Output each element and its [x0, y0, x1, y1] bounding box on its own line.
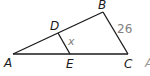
vertex-label-c: C [124, 57, 133, 71]
triangle-diagram: A B C D E x 26 A [0, 0, 150, 76]
vertex-label-d: D [50, 19, 59, 33]
vertex-label-b: B [98, 0, 106, 12]
vertex-label-a: A [3, 56, 12, 70]
cutoff-label: A [144, 56, 150, 70]
vertex-label-e: E [66, 57, 74, 71]
segment-bc-measure: 26 [117, 22, 132, 36]
segment-de-measure: x [67, 35, 75, 48]
